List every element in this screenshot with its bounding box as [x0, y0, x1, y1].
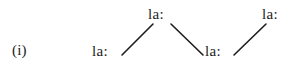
- contour-segment-rise-2: [234, 24, 266, 55]
- syllable-label-4: la:: [262, 6, 278, 23]
- item-number-label: (i): [12, 42, 27, 59]
- contour-segment-rise-1: [122, 24, 153, 55]
- syllable-label-2: la:: [148, 6, 164, 23]
- contour-segment-fall-1: [171, 24, 203, 55]
- syllable-label-1: la:: [92, 43, 108, 60]
- pitch-contour-figure: (i) la: la: la: la:: [0, 0, 302, 70]
- syllable-label-3: la:: [205, 43, 221, 60]
